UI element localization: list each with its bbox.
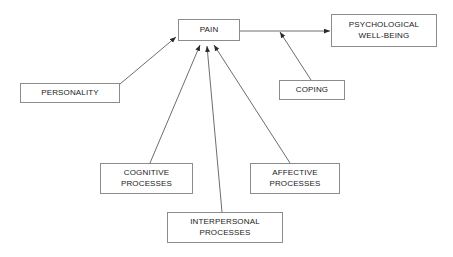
node-cognitive-processes-label-line1: COGNITIVE — [124, 168, 169, 179]
edge-coping-to-pain-well-being-link — [280, 32, 311, 80]
node-cognitive-processes-label-line2: PROCESSES — [121, 179, 172, 190]
node-personality-label-line1: PERSONALITY — [41, 88, 99, 99]
node-interpersonal-processes[interactable]: INTERPERSONAL PROCESSES — [167, 212, 283, 243]
node-pain[interactable]: PAIN — [178, 19, 240, 41]
edge-interpersonal-processes-to-pain — [207, 46, 222, 212]
edge-cognitive-processes-to-pain — [150, 45, 200, 163]
edge-personality-to-pain — [120, 37, 176, 84]
node-psychological-well-being-label-line2: WELL-BEING — [359, 31, 410, 42]
node-affective-processes-label-line2: PROCESSES — [269, 179, 320, 190]
node-personality[interactable]: PERSONALITY — [20, 83, 120, 103]
node-cognitive-processes[interactable]: COGNITIVE PROCESSES — [100, 163, 193, 194]
node-affective-processes-label-line1: AFFECTIVE — [272, 168, 317, 179]
node-psychological-well-being[interactable]: PSYCHOLOGICAL WELL-BEING — [331, 14, 437, 47]
edge-affective-processes-to-pain — [214, 45, 290, 163]
node-affective-processes[interactable]: AFFECTIVE PROCESSES — [250, 163, 340, 194]
diagram-canvas: PAIN PSYCHOLOGICAL WELL-BEING PERSONALIT… — [0, 0, 453, 257]
node-psychological-well-being-label-line1: PSYCHOLOGICAL — [349, 20, 419, 31]
node-pain-label-line1: PAIN — [200, 25, 219, 36]
node-interpersonal-processes-label-line2: PROCESSES — [199, 228, 250, 239]
node-interpersonal-processes-label-line1: INTERPERSONAL — [190, 217, 260, 228]
node-coping[interactable]: COPING — [279, 80, 345, 100]
node-coping-label-line1: COPING — [296, 85, 328, 96]
